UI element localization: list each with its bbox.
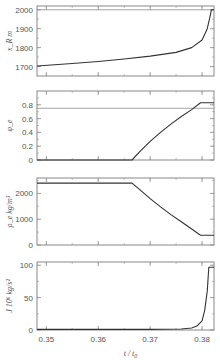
- panel-3: 010002000ρ_e kg/m³: [5, 178, 214, 250]
- y-tick-label: 1900: [15, 25, 33, 34]
- plot-frame: [37, 262, 214, 330]
- y-axis-label: φ_e: [5, 119, 14, 131]
- y-tick-label: 100: [20, 261, 34, 270]
- data-line: [37, 10, 214, 66]
- data-line: [37, 183, 214, 235]
- y-axis-label: J 10⁶ kg/s²: [5, 279, 14, 313]
- x-tick-label: 0.38: [194, 335, 210, 344]
- x-tick-label: 0.36: [90, 335, 106, 344]
- y-tick-label: 0: [29, 241, 34, 250]
- y-tick-label: 0.4: [22, 128, 34, 137]
- y-tick-label: 1700: [15, 63, 33, 72]
- y-tick-label: 0.6: [22, 115, 34, 124]
- data-line: [37, 267, 214, 329]
- y-tick-label: 1000: [15, 215, 33, 224]
- x-tick-label: 0.35: [39, 335, 55, 344]
- plot-frame: [37, 91, 214, 160]
- panel-2: 00.20.40.60.8φ_e: [5, 91, 214, 165]
- figure: 1700180019002000x_R m00.20.40.60.8φ_e010…: [0, 0, 220, 360]
- plot-frame: [37, 6, 214, 76]
- panel-4: 050100J 10⁶ kg/s²: [5, 261, 214, 335]
- y-tick-label: 0.8: [22, 101, 34, 110]
- y-tick-label: 0.2: [22, 142, 34, 151]
- y-tick-label: 50: [24, 294, 33, 303]
- data-line: [37, 103, 214, 160]
- x-tick-label: 0.37: [142, 335, 158, 344]
- y-tick-label: 0: [29, 326, 34, 335]
- x-axis-label: t / t0: [124, 349, 138, 359]
- panel-1: 1700180019002000x_R m: [5, 6, 214, 76]
- y-tick-label: 1800: [15, 44, 33, 53]
- y-tick-label: 0: [29, 156, 34, 165]
- y-tick-label: 2000: [15, 6, 33, 15]
- y-axis-label: ρ_e kg/m³: [5, 195, 14, 228]
- plot-frame: [37, 178, 214, 245]
- y-axis-label: x_R m: [5, 31, 14, 52]
- y-tick-label: 2000: [15, 189, 33, 198]
